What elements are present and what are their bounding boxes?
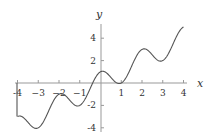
function-plot: -4−3−2−1123442-2-4 x y — [0, 0, 214, 140]
x-tick-label: -4 — [13, 88, 22, 98]
x-tick-label: 4 — [181, 88, 187, 98]
y-axis-label: y — [95, 8, 103, 21]
x-tick-label: 1 — [118, 88, 124, 98]
y-tick-label: 4 — [90, 33, 96, 43]
x-tick-label: −2 — [52, 88, 65, 98]
y-tick-label: 2 — [90, 56, 96, 66]
x-tick-label: 2 — [139, 88, 145, 98]
x-axis-label: x — [197, 77, 204, 90]
y-tick-label: -4 — [87, 123, 96, 133]
x-tick-label: −3 — [32, 88, 46, 98]
axes — [15, 24, 187, 132]
x-tick-label: 3 — [160, 88, 166, 98]
y-tick-label: -2 — [87, 100, 96, 110]
x-tick-label: −1 — [73, 88, 86, 98]
